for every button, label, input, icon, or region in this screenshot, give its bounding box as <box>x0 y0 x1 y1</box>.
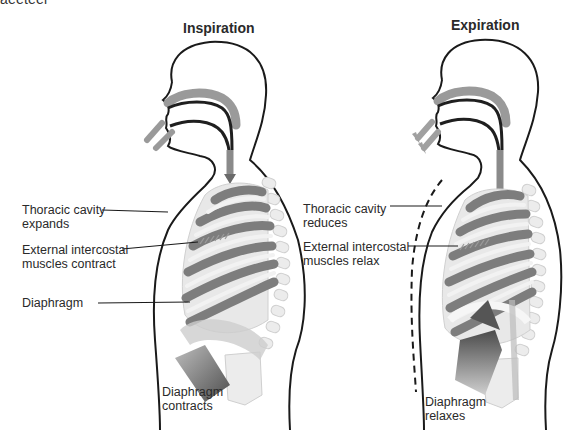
label-intercostal-relax: External intercostal muscles relax <box>303 240 409 268</box>
label-thoracic-cavity-reduces: Thoracic cavity reduces <box>303 202 386 230</box>
airway-tube-upper <box>168 102 232 150</box>
airway-tube-upper <box>438 100 502 150</box>
airway-tube-lower <box>440 119 500 168</box>
label-diaphragm-contracts: Diaphragm contracts <box>162 385 223 413</box>
label-diaphragm-relaxes: Diaphragm relaxes <box>425 395 486 423</box>
nasal-cavity <box>168 93 236 125</box>
rib-cage <box>182 183 274 333</box>
trachea-arrow-icon <box>224 174 236 184</box>
label-diaphragm: Diaphragm <box>22 296 83 310</box>
expanded-chest-outline <box>411 180 442 392</box>
inspiration-figure <box>98 42 305 430</box>
nasal-cavity <box>438 91 506 123</box>
airflow-arrow-icon <box>147 123 162 140</box>
label-thoracic-cavity-expands: Thoracic cavity expands <box>22 203 105 231</box>
airway-tube-lower <box>170 121 230 168</box>
label-intercostal-contract: External intercostal muscles contract <box>22 243 128 271</box>
expiration-figure <box>390 40 561 430</box>
